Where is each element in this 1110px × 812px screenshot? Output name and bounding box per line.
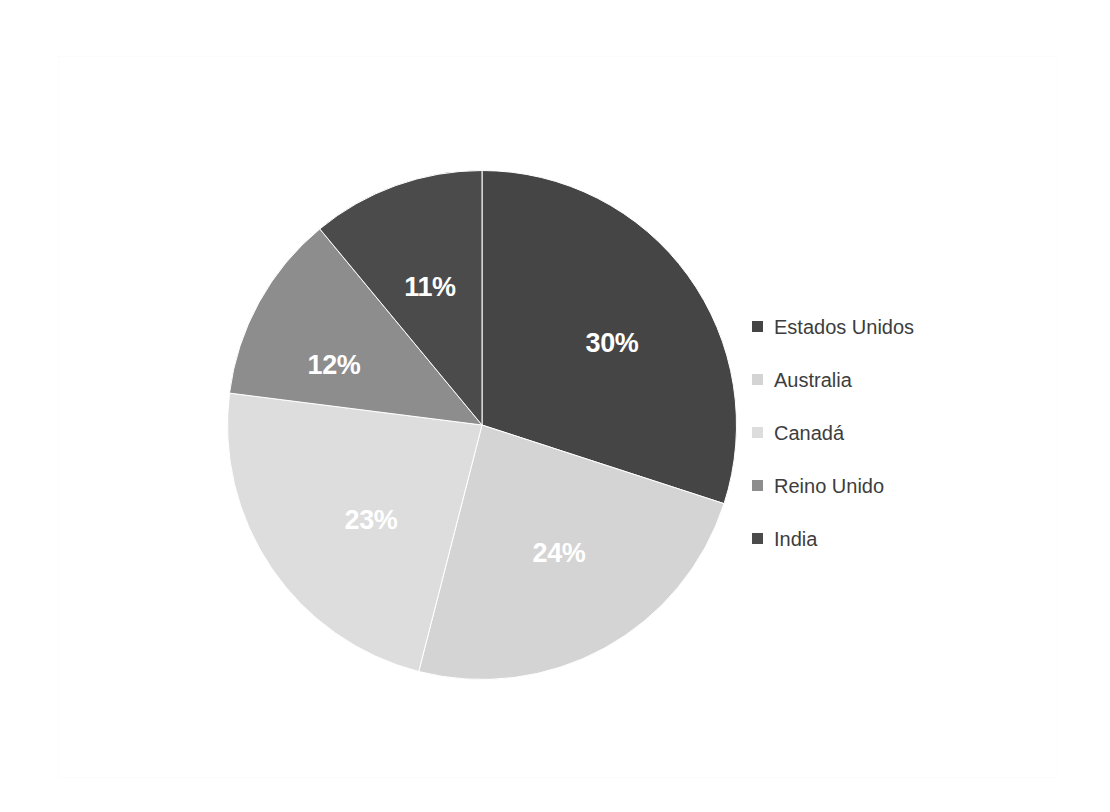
pie-chart-canvas: 30%24%23%12%11% Estados UnidosAustraliaC…: [0, 0, 1110, 812]
pie-svg: [227, 170, 737, 680]
chart-legend: Estados UnidosAustraliaCanadáReino Unido…: [752, 300, 982, 565]
pie-graphic: [227, 170, 737, 680]
pie-slice-group: [228, 171, 737, 680]
legend-item-reino-unido[interactable]: Reino Unido: [752, 459, 982, 512]
legend-item-label: Canadá: [774, 423, 844, 443]
pie-slice-label: 11%: [404, 272, 456, 303]
legend-item-australia[interactable]: Australia: [752, 353, 982, 406]
legend-swatch-icon: [752, 321, 763, 332]
legend-swatch-icon: [752, 480, 763, 491]
legend-item-label: India: [774, 529, 817, 549]
pie-slice-label: 30%: [585, 328, 638, 359]
legend-item-india[interactable]: India: [752, 512, 982, 565]
pie-slice-label: 23%: [344, 505, 397, 536]
legend-swatch-icon: [752, 533, 763, 544]
legend-item-estados-unidos[interactable]: Estados Unidos: [752, 300, 982, 353]
legend-item-label: Australia: [774, 370, 852, 390]
pie-slice-label: 24%: [532, 538, 585, 569]
legend-item-label: Estados Unidos: [774, 317, 914, 337]
pie-slice-label: 12%: [307, 350, 360, 381]
legend-swatch-icon: [752, 427, 763, 438]
legend-item-label: Reino Unido: [774, 476, 884, 496]
legend-item-canadá[interactable]: Canadá: [752, 406, 982, 459]
legend-swatch-icon: [752, 374, 763, 385]
